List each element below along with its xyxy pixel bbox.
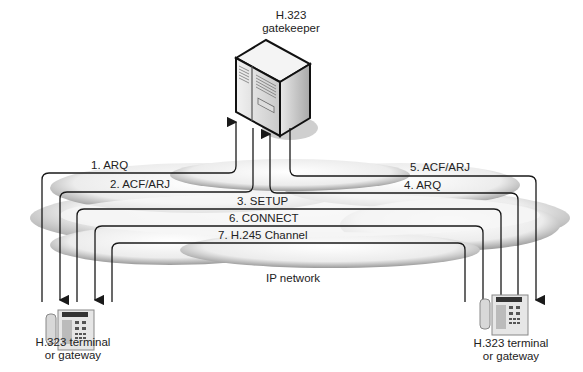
network-label: IP network <box>266 273 320 285</box>
terminal-left-label-line2: or gateway <box>18 349 128 362</box>
msg-3-label: 3. SETUP <box>237 196 288 208</box>
msg-1-label: 1. ARQ <box>91 160 128 172</box>
msg-4-label: 4. ARQ <box>404 180 441 192</box>
msg-7-label: 7. H.245 Channel <box>218 230 308 242</box>
terminal-right-label: H.323 terminal or gateway <box>456 337 566 363</box>
gatekeeper-label-line2: gatekeeper <box>236 22 346 35</box>
msg-5-label: 5. ACF/ARJ <box>410 162 470 174</box>
msg-6-label: 6. CONNECT <box>229 213 299 225</box>
gatekeeper-label: H.323 gatekeeper <box>236 9 346 35</box>
msg-2-label: 2. ACF/ARJ <box>110 179 170 191</box>
terminal-left-label-line1: H.323 terminal <box>18 336 128 349</box>
terminal-left-label: H.323 terminal or gateway <box>18 336 128 362</box>
terminal-right-label-line2: or gateway <box>456 350 566 363</box>
diagram-canvas <box>0 0 583 372</box>
server-icon <box>236 40 318 140</box>
terminal-right-label-line1: H.323 terminal <box>456 337 566 350</box>
phone-icon <box>480 295 528 335</box>
gatekeeper-label-line1: H.323 <box>236 9 346 22</box>
